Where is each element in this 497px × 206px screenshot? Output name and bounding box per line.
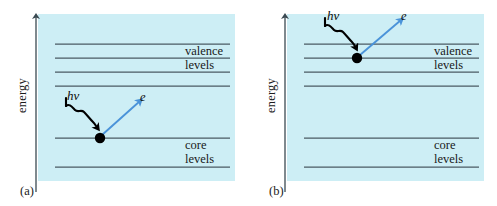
panel-b: energy valence levels core levels hv e (… bbox=[249, 0, 497, 206]
energy-level-figure: energy valence levels core levels hv e (… bbox=[0, 0, 497, 206]
panel-a-energy-axis-label: energy bbox=[15, 66, 30, 126]
electron-dot bbox=[95, 133, 105, 143]
panel-b-core-levels-label: core levels bbox=[434, 139, 463, 166]
panel-b-energy-axis-label: energy bbox=[264, 66, 279, 126]
valence-label-line-2: levels bbox=[185, 59, 223, 73]
core-label-line-2: levels bbox=[185, 153, 214, 167]
panel-b-valence-levels-label: valence levels bbox=[434, 45, 472, 72]
panel-a-graphics bbox=[0, 0, 248, 206]
electron-arrow bbox=[360, 20, 401, 55]
panel-b-caption: (b) bbox=[269, 184, 284, 199]
panel-a-core-levels-label: core levels bbox=[185, 139, 214, 166]
panel-b-graphics bbox=[249, 0, 497, 206]
panel-a-electron-label: e bbox=[140, 90, 146, 105]
panel-a-caption: (a) bbox=[20, 184, 34, 199]
core-label-line-1: core bbox=[185, 139, 214, 153]
panel-b-photon-label: hv bbox=[327, 8, 339, 24]
valence-label-line-1: valence bbox=[434, 45, 472, 59]
valence-label-line-2: levels bbox=[434, 59, 472, 73]
core-label-line-2: levels bbox=[434, 153, 463, 167]
electron-arrow bbox=[102, 101, 140, 135]
electron-dot bbox=[352, 53, 362, 63]
panel-b-electron-label: e bbox=[401, 9, 407, 24]
panel-a-valence-levels-label: valence levels bbox=[185, 45, 223, 72]
valence-label-line-1: valence bbox=[185, 45, 223, 59]
panel-a-photon-label: hv bbox=[67, 88, 79, 104]
panel-a: energy valence levels core levels hv e (… bbox=[0, 0, 248, 206]
core-label-line-1: core bbox=[434, 139, 463, 153]
